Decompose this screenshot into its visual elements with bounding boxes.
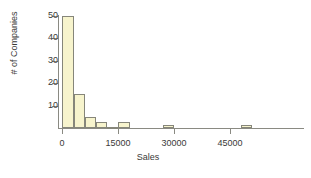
x-axis-line <box>58 128 304 129</box>
x-tick-30000 <box>174 128 175 134</box>
y-tick-50: 50 <box>0 16 58 17</box>
x-tick-0 <box>62 128 63 134</box>
histogram-figure: # of Companies 50 40 30 20 10 0 15000 30… <box>0 0 311 178</box>
x-tick-label: 0 <box>59 138 64 148</box>
y-tick-40: 40 <box>0 38 58 39</box>
histogram-bar <box>96 122 107 128</box>
y-tick-label: 40 <box>32 33 58 42</box>
x-tick-45000 <box>230 128 231 134</box>
x-tick-label: 15000 <box>105 138 130 148</box>
y-tick-20: 20 <box>0 83 58 84</box>
histogram-bar <box>62 16 74 128</box>
histogram-bar <box>163 125 174 128</box>
histogram-bar <box>74 94 85 128</box>
y-tick-label: 10 <box>32 101 58 110</box>
histogram-bar <box>107 127 118 129</box>
x-tick-label: 45000 <box>217 138 242 148</box>
y-tick-10: 10 <box>0 106 58 107</box>
y-tick-label: 20 <box>32 78 58 87</box>
histogram-bar <box>118 122 130 128</box>
x-tick-label: 30000 <box>161 138 186 148</box>
y-tick-30: 30 <box>0 61 58 62</box>
y-axis-line <box>58 15 59 129</box>
x-axis-title: Sales <box>58 152 238 162</box>
y-axis-title: # of Companies <box>9 1 19 85</box>
x-tick-15000 <box>118 128 119 134</box>
histogram-bar <box>241 125 252 128</box>
histogram-bar <box>85 117 96 128</box>
y-tick-label: 30 <box>32 56 58 65</box>
y-tick-label: 50 <box>32 11 58 20</box>
